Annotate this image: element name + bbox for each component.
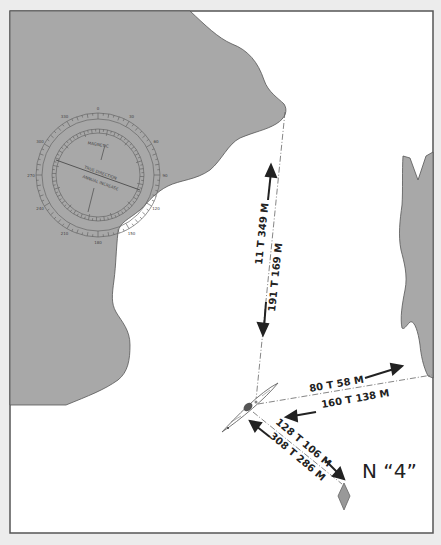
compass-degree-label: 90 bbox=[162, 173, 168, 178]
compass-degree-label: 0 bbox=[97, 106, 100, 111]
compass-degree-label: 270 bbox=[27, 173, 35, 178]
compass-degree-label: 60 bbox=[153, 139, 159, 144]
navigation-chart-figure: MAGNETIC TRUE DIRECTION ANNUAL INCREASE … bbox=[0, 0, 441, 545]
compass-degree-label: 300 bbox=[36, 139, 44, 144]
compass-degree-label: 120 bbox=[152, 206, 160, 211]
compass-degree-label: 330 bbox=[61, 114, 69, 119]
compass-degree-label: 240 bbox=[36, 206, 44, 211]
compass-degree-label: 180 bbox=[94, 240, 102, 245]
compass-degree-label: 30 bbox=[129, 114, 135, 119]
compass-degree-label: 210 bbox=[61, 231, 69, 236]
marker-label: N “4” bbox=[362, 459, 417, 483]
compass-degree-label: 150 bbox=[128, 231, 136, 236]
